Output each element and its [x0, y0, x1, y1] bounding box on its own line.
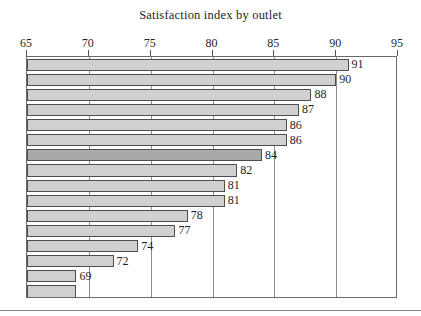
plot-area	[26, 56, 397, 298]
chart-page: Satisfaction index by outlet 65707580859…	[0, 0, 421, 316]
bar[interactable]	[27, 119, 287, 131]
bar[interactable]	[27, 164, 237, 176]
bar-value-label: 81	[228, 194, 240, 206]
bar-value-label: 78	[191, 209, 203, 221]
x-tick-label: 90	[329, 36, 341, 51]
gridline	[336, 57, 337, 297]
bar-value-label: 84	[265, 149, 277, 161]
bar[interactable]	[27, 210, 188, 222]
bar[interactable]	[27, 255, 114, 267]
x-tick-label: 75	[144, 36, 156, 51]
bar[interactable]	[27, 59, 349, 71]
bar-value-label: 86	[290, 134, 302, 146]
bar[interactable]	[27, 74, 336, 86]
bar-value-label: 90	[339, 73, 351, 85]
bar[interactable]	[27, 104, 299, 116]
bar[interactable]	[27, 240, 138, 252]
bar[interactable]	[27, 89, 311, 101]
bar[interactable]	[27, 270, 76, 282]
x-tick-mark	[397, 50, 398, 56]
bar-value-label: 88	[314, 88, 326, 100]
bar[interactable]	[27, 134, 287, 146]
page-divider	[0, 310, 421, 311]
bar[interactable]	[27, 225, 175, 237]
x-tick-label: 70	[82, 36, 94, 51]
bar-value-label: 74	[141, 240, 153, 252]
x-tick-label: 85	[267, 36, 279, 51]
bar-value-label: 86	[290, 119, 302, 131]
bar[interactable]	[27, 285, 76, 297]
x-tick-label: 80	[206, 36, 218, 51]
bar-value-label: 72	[117, 255, 129, 267]
x-tick-label: 65	[20, 36, 32, 51]
bar-value-label: 69	[79, 270, 91, 282]
bar[interactable]	[27, 195, 225, 207]
bar-value-label: 81	[228, 179, 240, 191]
x-tick-label: 95	[391, 36, 403, 51]
bar-value-label: 77	[178, 224, 190, 236]
bar-value-label: 87	[302, 103, 314, 115]
bar[interactable]	[27, 180, 225, 192]
bar-value-label: 91	[352, 58, 364, 70]
bar-value-label: 82	[240, 164, 252, 176]
bar[interactable]	[27, 149, 262, 161]
